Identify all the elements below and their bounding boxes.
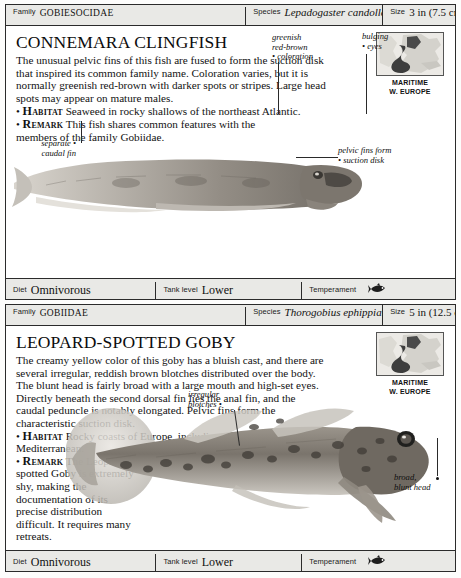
diet-label: Diet	[13, 557, 27, 566]
card-body: Connemara Clingfish The unusual pelvic f…	[6, 26, 455, 278]
species-cell: Species Thorogobius ephippiatus	[246, 305, 383, 325]
species-value: Lepadogaster candollei	[285, 6, 384, 18]
card-body: Leopard-spotted Goby The creamy yellow c…	[6, 326, 455, 550]
family-cell: Family Gobiidae	[6, 307, 246, 327]
card-footer-bar: Diet Omnivorous Tank level Lower Tempera…	[6, 550, 455, 571]
family-value: Gobiesocidae	[40, 8, 114, 18]
leader-suction-disk	[296, 157, 338, 158]
size-value: 3 in (7.5 cm)	[409, 6, 455, 18]
family-cell: Family Gobiesocidae	[6, 7, 246, 27]
diet-cell: Diet Omnivorous	[6, 554, 156, 572]
species-value: Thorogobius ephippiatus	[285, 306, 384, 318]
tank-level-value: Lower	[202, 283, 233, 298]
leader-blunt-head	[437, 438, 438, 476]
temperament-label: Temperament	[309, 285, 356, 294]
callout-eyes: bulging • eyes	[362, 32, 388, 51]
leader-eyes	[366, 54, 367, 114]
diet-value: Omnivorous	[31, 283, 91, 298]
temperament-cell: Temperament	[302, 279, 455, 299]
map-graphic	[377, 333, 443, 375]
fish-icon	[368, 553, 388, 571]
map-label-line2: W. EUROPE	[376, 87, 444, 96]
card-footer-bar: Diet Omnivorous Tank level Lower Tempera…	[6, 278, 455, 299]
tank-level-label: Tank level	[163, 285, 197, 294]
diet-value: Omnivorous	[31, 555, 91, 570]
fish-illustration-goby	[66, 381, 455, 541]
remark-keyword: Remark	[23, 454, 64, 468]
species-label: Species	[253, 7, 280, 16]
size-label: Size	[390, 307, 405, 316]
species-card-clingfish: Family Gobiesocidae Species Lepadogaster…	[5, 4, 456, 300]
callout-blunt-head: broad, blunt head	[394, 473, 431, 492]
callout-suction-disk: pelvic fins form • suction disk	[338, 146, 391, 165]
tank-level-value: Lower	[202, 555, 233, 570]
tank-level-label: Tank level	[163, 557, 197, 566]
callout-blotches: irregular blotches •	[188, 390, 222, 409]
family-label: Family	[13, 307, 36, 316]
size-label: Size	[390, 7, 405, 16]
callout-coloration: greenish red-brown • coloration	[272, 33, 313, 62]
remark-bullet: •	[16, 455, 23, 467]
fish-icon	[368, 281, 388, 299]
temperament-cell: Temperament	[302, 551, 455, 571]
species-cell: Species Lepadogaster candollei	[246, 5, 383, 25]
map-frame	[376, 332, 444, 376]
diet-label: Diet	[13, 285, 27, 294]
species-card-goby: Family Gobiidae Species Thorogobius ephi…	[5, 304, 456, 572]
leader-coloration	[278, 62, 279, 114]
tank-level-cell: Tank level Lower	[156, 282, 302, 300]
habitat-bullet: •	[16, 430, 23, 442]
card-header-bar: Family Gobiidae Species Thorogobius ephi…	[6, 305, 455, 326]
fish-illustration-clingfish	[6, 111, 455, 236]
temperament-label: Temperament	[309, 557, 356, 566]
species-label: Species	[253, 307, 280, 316]
diet-cell: Diet Omnivorous	[6, 282, 156, 300]
leader-caudal-fin	[81, 121, 82, 143]
habitat-keyword: Habitat	[23, 429, 63, 443]
callout-caudal-fin: separate • caudal fin	[20, 139, 76, 158]
dot-blunt-head	[436, 477, 439, 480]
family-value: Gobiidae	[40, 308, 88, 318]
size-cell: Size 3 in (7.5 cm)	[383, 5, 455, 25]
size-cell: Size 5 in (12.5 cm)	[383, 305, 455, 325]
species-reference-page: Family Gobiesocidae Species Lepadogaster…	[0, 0, 461, 578]
card-header-bar: Family Gobiesocidae Species Lepadogaster…	[6, 5, 455, 26]
size-value: 5 in (12.5 cm)	[409, 306, 455, 318]
family-label: Family	[13, 7, 36, 16]
tank-level-cell: Tank level Lower	[156, 554, 302, 572]
map-label-line1: MARITIME	[376, 78, 444, 87]
